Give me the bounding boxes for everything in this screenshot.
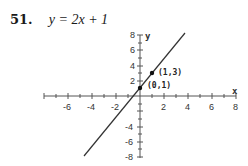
point-0-1 <box>138 86 142 90</box>
y-tick-label: 4 <box>130 61 135 71</box>
x-tick-label: -6 <box>63 102 71 112</box>
y-axis-label: y <box>145 31 151 41</box>
x-tick-label: 2 <box>161 102 166 112</box>
y-tick-label: -4 <box>125 122 133 132</box>
x-axis-label: x <box>232 86 238 96</box>
graph: -6 -4 -2 2 4 6 8 8 6 4 2 -4 -6 -8 y x (0… <box>0 0 248 166</box>
x-tick-label: 6 <box>209 102 214 112</box>
x-tick-label: -4 <box>87 102 95 112</box>
x-tick-label: 4 <box>185 102 190 112</box>
y-tick-label: -6 <box>125 137 133 147</box>
x-tick-label: -2 <box>111 102 119 112</box>
x-tick-label: 8 <box>233 102 238 112</box>
y-tick-label: 2 <box>130 76 135 86</box>
y-tick-label: 6 <box>130 45 135 55</box>
point-1-3 <box>150 71 154 75</box>
y-tick-label: 8 <box>130 30 135 40</box>
y-tick-label: -8 <box>125 152 133 162</box>
point-label-1-3: (1,3) <box>158 68 182 77</box>
point-label-0-1: (0,1) <box>147 81 171 90</box>
